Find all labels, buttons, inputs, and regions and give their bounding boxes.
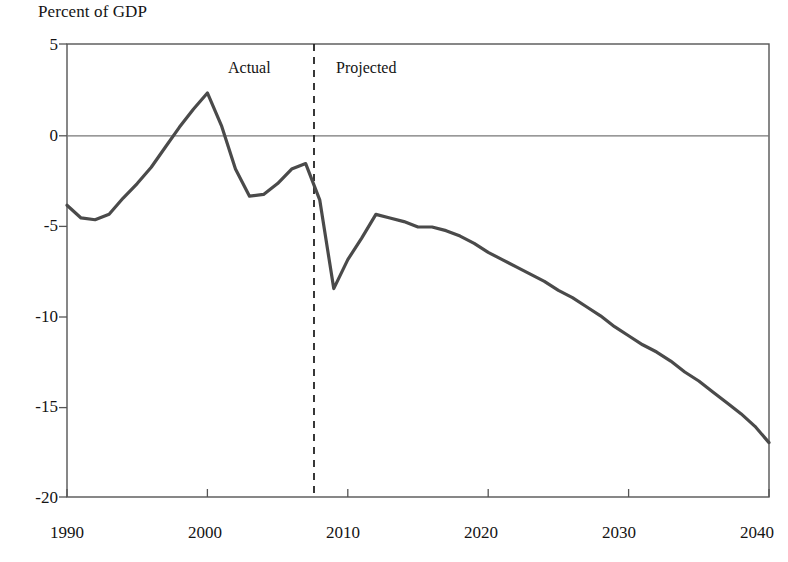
plot-frame: [67, 44, 769, 497]
x-axis-ticks: [67, 489, 769, 497]
y-axis-ticks: [59, 44, 67, 497]
chart-figure: Percent of GDP 5 0 -5 -10 -15 -20 1990 2…: [0, 0, 788, 562]
plot-svg: [0, 0, 788, 562]
data-series-line: [67, 93, 769, 443]
